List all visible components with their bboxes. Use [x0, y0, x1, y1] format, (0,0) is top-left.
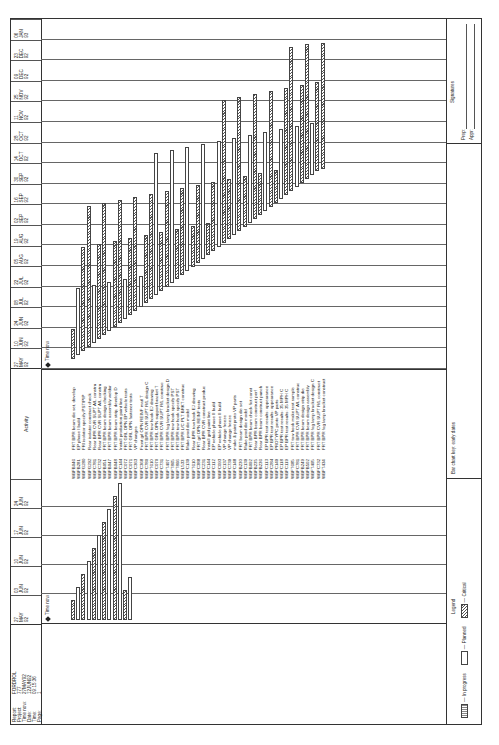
gantt-bar	[107, 509, 111, 620]
gantt-bar	[102, 203, 106, 335]
gantt-bar	[149, 194, 153, 299]
report-header: Report:FORDROLProject:777Time now:27MAY9…	[11, 19, 42, 724]
gantt-bar	[274, 170, 278, 203]
prep-signature-line	[466, 24, 467, 129]
date-y: 92	[24, 104, 29, 120]
gantt-bar	[279, 129, 283, 199]
grid-line	[41, 506, 446, 507]
gantt-bar	[196, 185, 200, 263]
grid-line	[41, 59, 446, 60]
date-y: 92	[24, 249, 29, 265]
date-y: 92	[24, 187, 29, 203]
left-timeline-grid: Time now	[41, 478, 446, 624]
date-y: 92	[24, 331, 29, 347]
in-progress-swatch-icon	[461, 704, 468, 718]
gantt-bar	[170, 150, 174, 283]
time-now-diamond-icon	[45, 362, 51, 368]
date-y: 92	[24, 43, 29, 59]
date-column-header: 25NOV92	[11, 81, 41, 102]
gantt-bar	[123, 279, 127, 319]
date-column-header: 16SEP92	[11, 184, 41, 205]
activity-row: WBFT434FRT BPR fog lamp bracket construc…	[321, 370, 326, 479]
gantt-bar	[175, 229, 179, 279]
date-y: 92	[24, 598, 29, 622]
gantt-bar	[263, 132, 267, 211]
gantt-bar	[191, 226, 195, 267]
gantt-bar	[113, 496, 117, 620]
activity-header: Activity	[11, 368, 41, 479]
date-column-header: 27MAY92	[11, 595, 41, 624]
gantt-bar	[81, 247, 85, 351]
date-column-header: 10JUN92	[11, 537, 41, 566]
gantt-bar	[310, 123, 314, 175]
date-y: 92	[24, 310, 29, 326]
date-column-header: 02SEP92	[11, 204, 41, 225]
time-now-marker: Time now	[45, 341, 50, 367]
date-y: 92	[24, 63, 29, 79]
gantt-bar	[243, 176, 247, 227]
date-column-header: 28OCT92	[11, 122, 41, 143]
grid-line	[41, 39, 446, 40]
date-y: 92	[24, 146, 29, 162]
date-y: 92	[24, 228, 29, 244]
legend-planned: — Planned	[461, 626, 468, 665]
gantt-bar	[128, 238, 132, 315]
date-column-header: 05AUG92	[11, 246, 41, 267]
grid-line	[41, 347, 446, 348]
gantt-bar	[118, 483, 122, 620]
date-y: 92	[24, 511, 29, 535]
gantt-bar	[92, 548, 96, 620]
appr-signature-line	[474, 24, 475, 129]
gantt-bar	[154, 153, 158, 295]
gantt-bar	[227, 179, 231, 239]
gantt-bar	[237, 97, 241, 231]
gantt-bar	[217, 141, 221, 247]
report-info: Report:FORDROLProject:777Time now:27MAY9…	[11, 624, 41, 724]
gantt-bar	[113, 241, 117, 327]
critical-swatch-icon	[461, 604, 468, 618]
gantt-bar	[180, 188, 184, 275]
activity-name: FRT BPR fog lamp bracket construct	[321, 379, 326, 450]
gantt-bar	[222, 100, 226, 243]
right-date-header: 27MAY9210JUN9224JUN9208JUL9222JUL9205AUG…	[11, 19, 41, 369]
date-column-header: 06JAN93	[11, 19, 41, 40]
grid-line	[41, 80, 446, 81]
date-y: 93	[24, 22, 29, 38]
gantt-bar	[97, 535, 101, 620]
gantt-bar	[321, 43, 325, 169]
gantt-bar	[289, 47, 293, 191]
date-column-header: 10JUN92	[11, 328, 41, 349]
time-now-diamond-icon	[45, 616, 51, 622]
report-frame: Bumper Report:FORDROLProject:777Time now…	[10, 18, 482, 725]
legend: Legend — In progress — Planned — Critica…	[447, 478, 482, 724]
gantt-bar	[269, 91, 273, 207]
gantt-bar	[97, 244, 101, 339]
gantt-bar	[284, 88, 288, 195]
gantt-bar	[128, 577, 132, 620]
gantt-report-page: Bumper Report:FORDROLProject:777Time now…	[0, 0, 499, 745]
date-y: 92	[24, 482, 29, 506]
date-y: 92	[24, 540, 29, 564]
grid-line	[41, 368, 446, 369]
gantt-bar	[253, 94, 257, 219]
date-y: 92	[24, 569, 29, 593]
gantt-bar	[133, 197, 137, 311]
gantt-bar	[118, 200, 122, 323]
grid-line	[41, 162, 446, 163]
signatures-title: Signatures	[450, 81, 455, 103]
legend-in-progress: — In progress	[461, 673, 468, 718]
gantt-bar	[315, 82, 319, 171]
date-column-header: 09DEC92	[11, 60, 41, 81]
time-now-label: Time now	[45, 341, 50, 361]
date-column-header: 27MAY92	[11, 348, 41, 369]
date-y: 92	[24, 84, 29, 100]
date-y: 92	[24, 351, 29, 367]
date-column-header: 24JUN92	[11, 479, 41, 508]
date-column-header: 11NOV92	[11, 101, 41, 122]
gantt-bar	[201, 144, 205, 259]
gantt-bar	[211, 182, 215, 251]
date-column-header: 30SEP92	[11, 163, 41, 184]
activity-code: WBFT434	[321, 453, 326, 479]
gantt-bar	[185, 147, 189, 271]
gantt-bar	[248, 135, 252, 223]
